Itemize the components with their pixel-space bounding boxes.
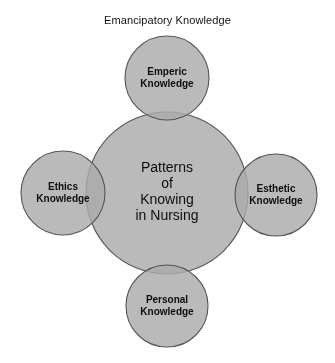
circle-emperic-knowledge [125,36,209,120]
circle-personal-knowledge [126,265,208,347]
diagram-root: Emancipatory Knowledge PatternsofKnowing… [0,0,335,363]
circle-esthetic-knowledge [235,154,317,236]
venn-diagram-canvas [0,0,335,363]
circle-center-patterns-of-knowing [86,112,248,274]
circle-ethics-knowledge [21,151,105,235]
